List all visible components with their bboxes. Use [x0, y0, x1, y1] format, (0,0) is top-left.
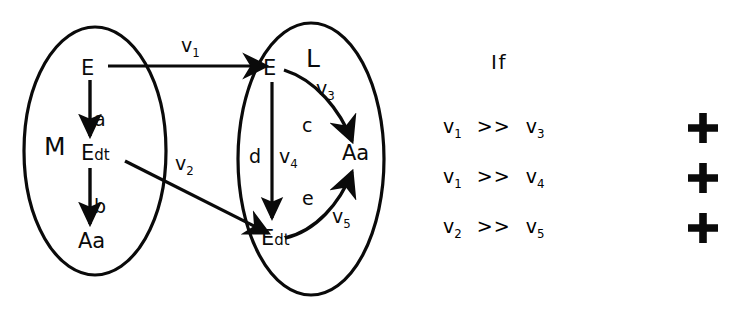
condition-right-sub: 4 [537, 177, 545, 191]
condition-left-sub: 1 [454, 177, 462, 191]
condition-operator: >> [477, 215, 511, 237]
condition-operator: >> [477, 115, 511, 137]
plus-icon [688, 213, 718, 243]
condition-right: v [526, 115, 537, 137]
condition-right-sub: 5 [537, 227, 545, 241]
condition-right: v [526, 165, 537, 187]
condition-row: v1 >> v4 [443, 165, 544, 191]
condition-left: v [443, 115, 454, 137]
condition-left: v [443, 165, 454, 187]
plus-icon [688, 163, 718, 193]
conditions-heading: If [491, 52, 507, 72]
condition-left: v [443, 215, 454, 237]
diagram-canvas: E_dt --> Aa --> L.E (horizontal) --> L.E… [0, 0, 755, 310]
condition-right: v [526, 215, 537, 237]
conditions-panel: If v1 >> v3 v1 >> v4 v2 >> v5 [0, 0, 755, 310]
plus-icon [688, 113, 718, 143]
condition-operator: >> [477, 165, 511, 187]
condition-left-sub: 1 [454, 127, 462, 141]
condition-row: v1 >> v3 [443, 115, 544, 141]
condition-row: v2 >> v5 [443, 215, 544, 241]
condition-left-sub: 2 [454, 227, 462, 241]
condition-right-sub: 3 [537, 127, 545, 141]
